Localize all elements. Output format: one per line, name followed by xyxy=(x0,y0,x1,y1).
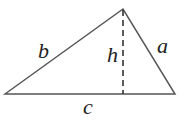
label-h: h xyxy=(107,42,118,67)
triangle xyxy=(5,9,175,94)
label-a: a xyxy=(157,33,168,58)
triangle-diagram: b h a c xyxy=(0,0,187,131)
label-c: c xyxy=(83,94,93,119)
label-b: b xyxy=(38,38,49,63)
